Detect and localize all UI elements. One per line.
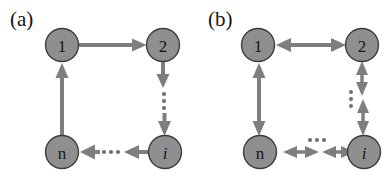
ellipsis-dot <box>116 150 120 154</box>
panel-b: (b) <box>208 7 381 169</box>
arrowhead-down-icon <box>356 82 368 96</box>
node-a-2[interactable]: 2 <box>147 29 180 62</box>
network-diagram-svg: (a) <box>0 0 389 182</box>
ellipsis-dot <box>162 92 166 96</box>
node-a-n-label: n <box>58 144 67 163</box>
node-b-1[interactable]: 1 <box>242 29 275 62</box>
arrowhead-up-icon <box>253 63 266 78</box>
arrowhead-right-icon <box>331 38 346 52</box>
node-b-i[interactable]: i <box>348 136 381 169</box>
node-b-n-label: n <box>256 144 265 163</box>
arrowhead-right-icon <box>305 146 319 158</box>
node-a-n[interactable]: n <box>46 136 79 169</box>
edge-b-n-to-1 <box>253 63 266 136</box>
node-a-2-label: 2 <box>159 37 168 56</box>
arrowhead-left-icon <box>283 146 297 158</box>
arrowhead-left-icon <box>276 38 291 52</box>
figure-container: (a) <box>0 0 389 182</box>
ellipsis-dot <box>162 99 166 103</box>
ellipsis-dot <box>308 138 312 142</box>
node-a-i[interactable]: i <box>149 136 182 169</box>
edge-b-1-to-2 <box>276 38 346 52</box>
node-b-1-label: 1 <box>254 37 263 56</box>
edge-b-i-to-n <box>283 138 355 158</box>
ellipsis-dot <box>322 138 326 142</box>
node-a-i-label: i <box>163 144 168 163</box>
arrowhead-up-icon <box>56 63 69 78</box>
arrowhead-down-icon <box>253 121 266 136</box>
arrowhead-up-icon <box>357 99 369 113</box>
panel-a: (a) <box>10 7 182 169</box>
arrowhead-left-icon <box>80 145 95 160</box>
arrowhead-left-icon <box>322 146 336 158</box>
arrowhead-down-icon <box>357 121 369 136</box>
node-b-i-label: i <box>362 144 367 163</box>
edge-a-n-to-1 <box>56 63 69 135</box>
edge-a-2-to-i <box>157 62 172 136</box>
arrowhead-down-icon <box>157 74 170 88</box>
arrowhead-right-icon <box>132 39 147 52</box>
ellipsis-dot <box>349 90 353 94</box>
node-a-1-label: 1 <box>58 37 67 56</box>
panel-a-label: (a) <box>10 7 33 31</box>
ellipsis-dot <box>109 150 113 154</box>
arrowhead-left-icon <box>124 145 139 159</box>
edge-a-1-to-2 <box>79 39 147 52</box>
node-a-1[interactable]: 1 <box>46 29 79 62</box>
arrowhead-up-icon <box>356 61 368 75</box>
ellipsis-dot <box>315 138 319 142</box>
edge-b-2-to-i <box>349 61 369 136</box>
arrowhead-down-icon <box>158 121 171 136</box>
node-b-2-label: 2 <box>358 37 367 56</box>
node-b-2[interactable]: 2 <box>346 29 379 62</box>
ellipsis-dot <box>102 150 106 154</box>
ellipsis-dot <box>349 104 353 108</box>
ellipsis-dot <box>349 97 353 101</box>
panel-b-label: (b) <box>208 7 233 31</box>
ellipsis-dot <box>162 106 166 110</box>
node-b-n[interactable]: n <box>244 136 277 169</box>
edge-a-i-to-n <box>80 145 149 160</box>
